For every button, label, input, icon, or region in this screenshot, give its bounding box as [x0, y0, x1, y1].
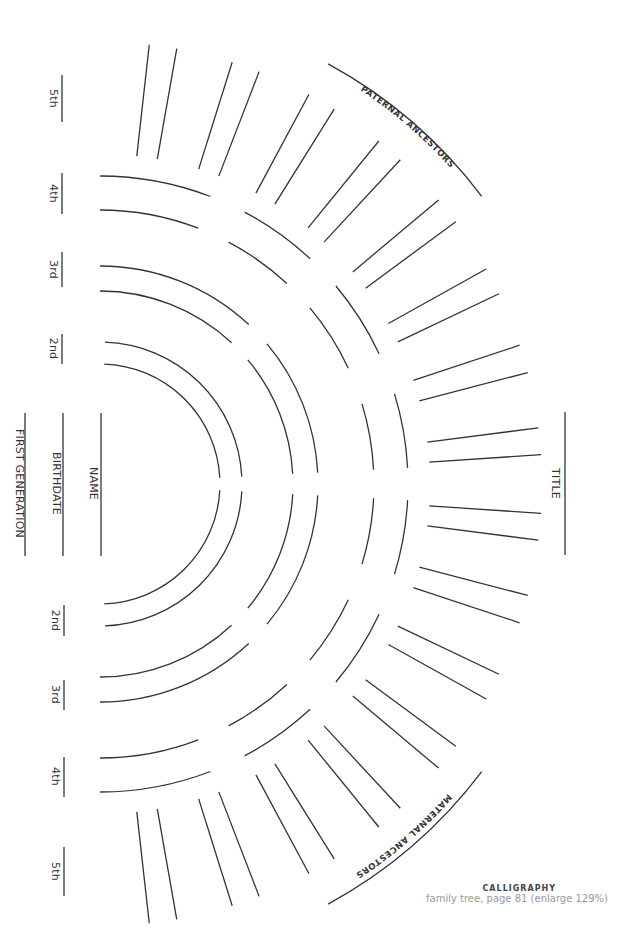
generation-rings	[100, 176, 408, 792]
gen5-name-line[interactable]	[256, 775, 309, 874]
gen4-name-line[interactable]	[395, 500, 408, 574]
first-generation-label: FIRST GENERATION	[13, 429, 26, 539]
gen5-name-line[interactable]	[308, 141, 379, 228]
gen4-name-line[interactable]	[310, 600, 348, 660]
gen5-name-line[interactable]	[137, 45, 149, 156]
gen4-name-line[interactable]	[336, 286, 379, 354]
gen5-name-line[interactable]	[157, 49, 176, 159]
gen2-name-line[interactable]	[105, 491, 242, 626]
gen3-name-line[interactable]	[100, 625, 232, 677]
birthdate-label: BIRTHDATE	[50, 444, 63, 524]
gen4-name-line[interactable]	[229, 684, 287, 726]
gen3-name-line[interactable]	[248, 360, 293, 474]
gen3-name-line[interactable]	[100, 266, 249, 325]
title-label: TITLE	[549, 454, 562, 514]
gen5-name-line[interactable]	[353, 200, 439, 272]
gen5-name-line[interactable]	[429, 455, 541, 462]
generation-label: 3rd	[47, 254, 60, 284]
gen3-name-line[interactable]	[248, 494, 293, 608]
caption-subtitle: family tree, page 81 (enlarge 129%)	[426, 893, 608, 904]
fifth-generation-spokes	[137, 45, 541, 923]
caption-title: CALLIGRAPHY	[426, 884, 556, 893]
gen5-name-line[interactable]	[429, 506, 541, 513]
gen5-name-line[interactable]	[427, 428, 538, 442]
gen5-name-line[interactable]	[275, 764, 334, 859]
gen3-name-line[interactable]	[267, 344, 318, 473]
name-label: NAME	[87, 454, 100, 514]
ancestor-label-arcs	[328, 64, 482, 904]
gen4-name-line[interactable]	[362, 498, 374, 564]
generation-label: 4th	[47, 178, 60, 208]
gen2-name-line[interactable]	[104, 364, 220, 478]
generation-label: 4th	[49, 762, 62, 792]
gen4-name-line[interactable]	[100, 176, 210, 197]
paternal-ancestors-label: PATERNAL ANCESTORS	[359, 84, 457, 170]
generation-label: 2nd	[47, 334, 60, 364]
caption: CALLIGRAPHY family tree, page 81 (enlarg…	[426, 884, 608, 904]
gen4-name-line[interactable]	[245, 709, 311, 756]
gen5-name-line[interactable]	[419, 567, 527, 595]
paternal-arc	[328, 64, 482, 196]
gen5-name-line[interactable]	[308, 740, 379, 827]
gen4-name-line[interactable]	[395, 394, 408, 468]
generation-label: 3rd	[49, 680, 62, 710]
gen3-name-line[interactable]	[100, 291, 232, 343]
gen5-name-line[interactable]	[324, 160, 400, 242]
gen5-name-line[interactable]	[157, 809, 176, 919]
gen4-name-line[interactable]	[229, 242, 287, 284]
gen4-name-line[interactable]	[100, 740, 198, 758]
gen4-name-line[interactable]	[100, 772, 210, 793]
gen5-name-line[interactable]	[398, 626, 499, 674]
first-generation-lines	[25, 412, 565, 556]
gen4-name-line[interactable]	[362, 404, 374, 470]
gen3-name-line[interactable]	[100, 643, 249, 702]
gen5-name-line[interactable]	[275, 109, 334, 204]
gen2-name-line[interactable]	[105, 342, 242, 477]
gen5-name-line[interactable]	[388, 269, 486, 323]
gen4-name-line[interactable]	[245, 212, 311, 259]
gen5-name-line[interactable]	[413, 588, 519, 623]
generation-label: 5th	[47, 83, 60, 113]
gen5-name-line[interactable]	[398, 294, 499, 342]
gen5-name-line[interactable]	[419, 373, 527, 401]
gen4-name-line[interactable]	[100, 210, 198, 228]
gen5-name-line[interactable]	[413, 345, 519, 380]
maternal-ancestors-label: MATERNAL ANCESTORS	[354, 793, 454, 881]
gen5-name-line[interactable]	[366, 680, 456, 746]
generation-label: 5th	[49, 856, 62, 886]
gen5-name-line[interactable]	[256, 94, 309, 193]
gen5-name-line[interactable]	[388, 644, 486, 698]
gen5-name-line[interactable]	[353, 696, 439, 768]
gen5-name-line[interactable]	[324, 726, 400, 808]
generation-label: 2nd	[49, 605, 62, 635]
gen5-name-line[interactable]	[427, 526, 538, 540]
gen4-name-line[interactable]	[336, 614, 379, 682]
gen2-name-line[interactable]	[104, 490, 220, 604]
gen5-name-line[interactable]	[137, 812, 149, 923]
gen4-name-line[interactable]	[310, 308, 348, 368]
gen3-name-line[interactable]	[267, 495, 318, 624]
gen5-name-line[interactable]	[366, 222, 456, 288]
